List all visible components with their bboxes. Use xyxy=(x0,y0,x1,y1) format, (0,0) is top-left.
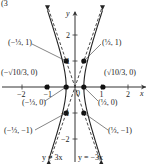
data-point xyxy=(44,84,49,89)
curve-arrow xyxy=(100,5,105,10)
leader-line xyxy=(32,44,66,61)
curve-arrow xyxy=(45,5,50,10)
point-label: (−⅓, 0) xyxy=(22,98,46,107)
asymptote-line xyxy=(50,9,102,161)
origin-label: 0 xyxy=(76,89,80,98)
point-label: (√10/3, 0) xyxy=(104,68,136,77)
leader-line xyxy=(84,113,108,130)
y-axis-label: y xyxy=(65,9,70,18)
point-label: (⅓, −1) xyxy=(108,126,132,135)
data-point xyxy=(100,84,105,89)
asymptote-label: y = 3x xyxy=(42,153,63,162)
point-label: (−⅓, −1) xyxy=(4,126,33,135)
point-label: (⅓, 1) xyxy=(102,38,122,47)
y-tick-label: 1 xyxy=(66,57,70,66)
y-tick-label: −2 xyxy=(61,135,70,144)
asymptote-line xyxy=(49,9,101,161)
y-tick-label: 2 xyxy=(66,31,70,40)
x-tick-label: 2 xyxy=(126,90,130,99)
point-label: (−√10/3, 0) xyxy=(1,68,38,77)
point-label: (−⅓, 1) xyxy=(8,38,32,47)
partial-text: (3 xyxy=(1,0,8,8)
x-axis-label: x xyxy=(139,89,144,98)
point-label: (⅓, 0) xyxy=(98,98,118,107)
leader-line xyxy=(84,87,98,101)
hyperbola-plot: xy−2−11221−1−20(−⅓, 1)(⅓, 1)(−√10/3, 0)(… xyxy=(0,0,151,164)
asymptote-label: y = −3x xyxy=(78,153,103,162)
